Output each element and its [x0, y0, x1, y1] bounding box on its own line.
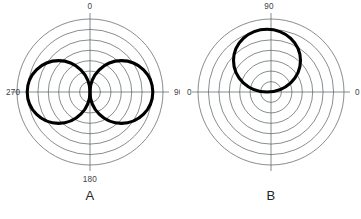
- polar-chart-a: 0 90 180 270: [0, 0, 180, 190]
- panel-caption-b: B: [181, 188, 361, 203]
- angle-label-left: 0: [187, 88, 192, 97]
- angle-label-right: 0: [355, 88, 360, 97]
- angle-label-bottom: 180: [83, 175, 98, 184]
- polar-panel-a: 0 90 180 270 A: [0, 0, 180, 219]
- polar-chart-b: 90 0 0: [181, 0, 361, 190]
- panel-caption-a: A: [0, 188, 180, 203]
- angle-label-left: 270: [6, 88, 21, 97]
- polar-panel-b: 90 0 0 B: [181, 0, 361, 219]
- angle-label-top: 90: [264, 2, 274, 11]
- angle-label-right: 90: [174, 88, 180, 97]
- angle-label-top: 0: [88, 2, 93, 11]
- polar-pattern-figure: 0 90 180 270 A 90 0: [0, 0, 361, 219]
